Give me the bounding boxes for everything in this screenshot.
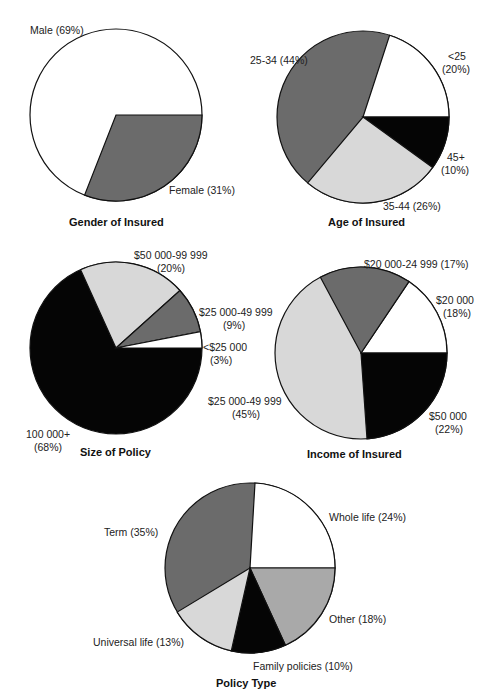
- label-lt25000-line2: (3%): [210, 354, 232, 366]
- label-100000-line2: (68%): [34, 441, 62, 453]
- pie-chart-figure: Male (69%) Female (31%) Gender of Insure…: [0, 0, 497, 697]
- title-age: Age of Insured: [328, 216, 405, 228]
- label-male: Male (69%): [30, 24, 84, 36]
- label-50000-line1: $50 000-99 999: [134, 249, 208, 261]
- label-25-34: 25-34 (44%): [250, 54, 308, 66]
- pie-gender: Male (69%) Female (31%) Gender of Insure…: [30, 24, 235, 228]
- label-25000-line2: (45%): [232, 408, 260, 420]
- label-20000-24999: $20 000-24 999 (17%): [364, 258, 469, 270]
- label-family-policies: Family policies (10%): [253, 660, 353, 672]
- label-50000-line2: (22%): [435, 423, 463, 435]
- label-35-44: 35-44 (26%): [383, 200, 441, 212]
- label-20000-line1: $20 000: [436, 294, 474, 306]
- label-other: Other (18%): [329, 613, 386, 625]
- label-whole-life: Whole life (24%): [329, 511, 406, 523]
- pie-size: $50 000-99 999 (20%) $25 000-49 999 (9%)…: [26, 249, 273, 458]
- label-female: Female (31%): [169, 184, 235, 196]
- label-lt25-line1: <25: [448, 50, 466, 62]
- label-25000-line1: $25 000-49 999: [208, 395, 282, 407]
- label-term: Term (35%): [104, 526, 158, 538]
- title-income: Income of Insured: [307, 448, 402, 460]
- label-25000-line1: $25 000-49 999: [199, 306, 273, 318]
- label-lt25000-line1: <$25 000: [203, 341, 247, 353]
- title-size: Size of Policy: [80, 446, 152, 458]
- label-20000-line2: (18%): [443, 307, 471, 319]
- pie-age: 25-34 (44%) <25 (20%) 45+ (10%) 35-44 (2…: [250, 31, 470, 228]
- label-50000-line2: (20%): [157, 262, 185, 274]
- title-gender: Gender of Insured: [69, 216, 164, 228]
- label-45plus-line1: 45+: [447, 151, 465, 163]
- label-45plus-line2: (10%): [441, 164, 469, 176]
- label-100000-line1: 100 000+: [26, 428, 70, 440]
- label-25000-line2: (9%): [223, 319, 245, 331]
- label-universal-life: Universal life (13%): [93, 636, 184, 648]
- label-lt25-line2: (20%): [442, 63, 470, 75]
- title-policy: Policy Type: [216, 677, 276, 689]
- label-50000-line1: $50 000: [429, 410, 467, 422]
- slice-whole-life: [250, 483, 335, 568]
- pie-income: $20 000-24 999 (17%) $20 000 (18%) $25 0…: [208, 258, 474, 460]
- pie-policy: Whole life (24%) Term (35%) Other (18%) …: [93, 483, 406, 689]
